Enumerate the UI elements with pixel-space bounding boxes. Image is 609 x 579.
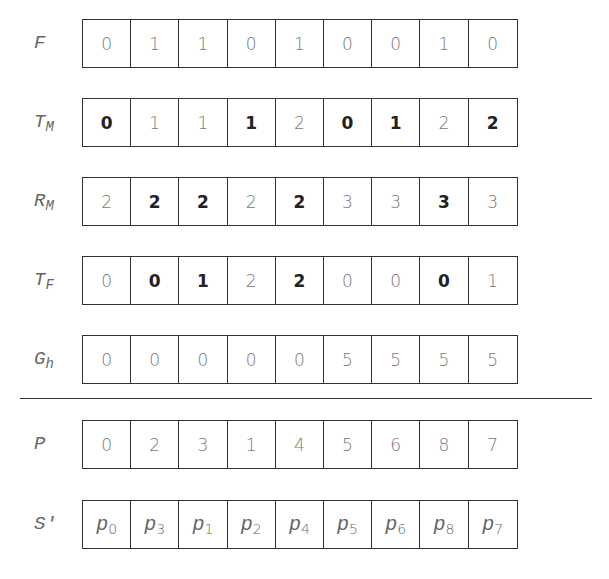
array-cell: 3	[179, 421, 227, 468]
array-cell: 2	[179, 178, 227, 225]
array-row-s-prime: S′p0p3p1p2p4p5p6p8p7	[0, 500, 609, 549]
array-cell: 0	[131, 257, 179, 304]
array-cell: 2	[420, 99, 468, 146]
array-cell: 1	[179, 20, 227, 67]
array-cells: 000005555	[82, 335, 518, 384]
array-cell: 0	[420, 257, 468, 304]
array-cell: 3	[420, 178, 468, 225]
array-cell: p2	[228, 501, 276, 548]
array-cell: 0	[324, 20, 372, 67]
array-cell: p5	[324, 501, 372, 548]
row-label: P	[34, 420, 78, 469]
array-cell: 2	[276, 99, 324, 146]
array-cell: 1	[420, 20, 468, 67]
array-cell: 2	[228, 257, 276, 304]
array-cell: 0	[83, 421, 131, 468]
separator-line	[20, 398, 592, 399]
array-row-t-f: TF001220001	[0, 256, 609, 305]
array-cell: 2	[131, 178, 179, 225]
array-cell: 1	[131, 99, 179, 146]
array-row-f: F011010010	[0, 19, 609, 68]
array-cell: 3	[324, 178, 372, 225]
row-label: S′	[34, 500, 78, 549]
row-label: TF	[34, 256, 78, 305]
array-cell: 0	[83, 257, 131, 304]
row-label: RM	[34, 177, 78, 226]
array-cells: p0p3p1p2p4p5p6p8p7	[82, 500, 518, 549]
array-cell: 2	[469, 99, 517, 146]
array-cell: 1	[228, 421, 276, 468]
array-cell: p7	[469, 501, 517, 548]
array-cell: 0	[228, 20, 276, 67]
array-cell: 5	[420, 336, 468, 383]
array-cell: 0	[324, 257, 372, 304]
array-cell: 0	[324, 99, 372, 146]
array-cell: 6	[372, 421, 420, 468]
array-cell: 1	[179, 99, 227, 146]
array-cell: 1	[179, 257, 227, 304]
array-cell: 0	[83, 99, 131, 146]
array-cells: 023145687	[82, 420, 518, 469]
array-cells: 001220001	[82, 256, 518, 305]
array-cell: 5	[372, 336, 420, 383]
array-cell: 5	[324, 336, 372, 383]
array-cell: p3	[131, 501, 179, 548]
array-row-g-h: Gh000005555	[0, 335, 609, 384]
array-cell: 1	[228, 99, 276, 146]
array-cell: 5	[324, 421, 372, 468]
array-cells: 222223333	[82, 177, 518, 226]
array-cell: 0	[469, 20, 517, 67]
array-cell: 0	[372, 20, 420, 67]
array-cell: 5	[469, 336, 517, 383]
array-cell: 2	[228, 178, 276, 225]
array-cell: 2	[276, 178, 324, 225]
array-row-p: P023145687	[0, 420, 609, 469]
array-cell: 0	[83, 20, 131, 67]
array-cell: p0	[83, 501, 131, 548]
array-cell: 0	[372, 257, 420, 304]
array-cell: p8	[420, 501, 468, 548]
array-cell: 0	[276, 336, 324, 383]
array-cell: 0	[131, 336, 179, 383]
array-cell: 2	[276, 257, 324, 304]
array-cell: 0	[83, 336, 131, 383]
array-cell: 3	[372, 178, 420, 225]
array-cell: p4	[276, 501, 324, 548]
array-cell: 1	[131, 20, 179, 67]
array-cell: 4	[276, 421, 324, 468]
array-cell: 8	[420, 421, 468, 468]
array-cells: 011010010	[82, 19, 518, 68]
array-cell: p6	[372, 501, 420, 548]
array-cell: 0	[179, 336, 227, 383]
array-cell: 2	[131, 421, 179, 468]
row-label: F	[34, 19, 78, 68]
array-cell: 1	[469, 257, 517, 304]
array-row-r-m: RM222223333	[0, 177, 609, 226]
array-cell: 2	[83, 178, 131, 225]
array-row-t-m: TM011120122	[0, 98, 609, 147]
row-label: Gh	[34, 335, 78, 384]
array-cells: 011120122	[82, 98, 518, 147]
array-cell: 1	[276, 20, 324, 67]
array-cell: 1	[372, 99, 420, 146]
array-cell: 3	[469, 178, 517, 225]
array-cell: 7	[469, 421, 517, 468]
array-cell: 0	[228, 336, 276, 383]
row-label: TM	[34, 98, 78, 147]
array-cell: p1	[179, 501, 227, 548]
